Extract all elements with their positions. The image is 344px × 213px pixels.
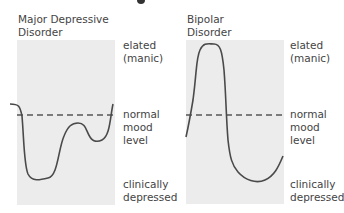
mood-curves	[0, 0, 344, 213]
bipolar-curve	[186, 44, 283, 182]
